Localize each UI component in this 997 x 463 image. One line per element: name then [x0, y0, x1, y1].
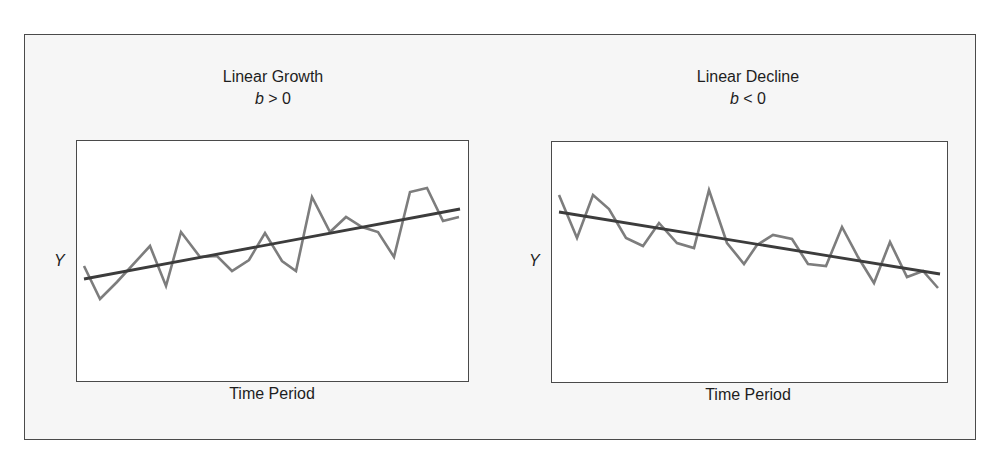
chart-lines-layer [0, 0, 997, 463]
left-trend-line [84, 209, 460, 279]
right-trend-line [559, 212, 940, 274]
right-observed-series [559, 190, 938, 288]
